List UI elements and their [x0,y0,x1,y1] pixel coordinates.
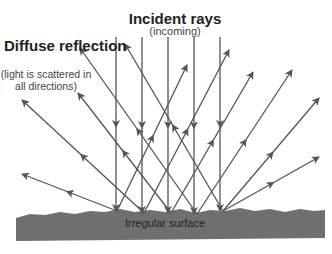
diffuse-reflection-title: Diffuse reflection [4,38,86,54]
reflected-ray [22,100,144,213]
reflected-ray [22,174,117,211]
incident-rays-subtitle: (incoming) [120,25,230,37]
diffuse-reflection-subtitle: (light is scattered in all directions) [0,68,92,92]
reflected-ray [223,157,319,211]
reflected-ray [125,44,223,211]
reflected-ray [144,50,229,213]
reflected-ray [80,48,197,214]
diffuse-reflection-diagram: Incident rays (incoming) Diffuse reflect… [0,0,332,254]
surface-label: Irregular surface [115,217,215,229]
reflected-ray [197,70,292,214]
reflected-ray [223,98,319,211]
